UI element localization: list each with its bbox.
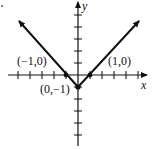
point-right-dot: [88, 73, 93, 78]
y-axis: [74, 2, 82, 146]
y-axis-label: y: [82, 0, 87, 12]
point-left-dot: [64, 73, 69, 78]
graph-figure: y x (−1,0) (1,0) (0,−1): [0, 0, 152, 149]
point-right-label: (1,0): [108, 55, 131, 67]
graph-svg: [0, 0, 152, 149]
corner-mark: [1, 5, 3, 7]
vertex-dot: [75, 84, 80, 89]
vertex-label: (0,−1): [40, 83, 70, 95]
x-axis-label: x: [141, 79, 146, 91]
point-left-label: (−1,0): [17, 55, 47, 67]
